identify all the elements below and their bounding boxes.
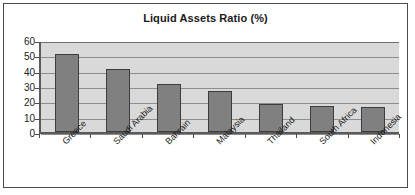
x-label-slot: Indonesia xyxy=(348,138,399,186)
x-label-slot: Saudi Arabia xyxy=(90,138,141,186)
bar-greece[interactable] xyxy=(55,54,79,132)
x-label-slot: Bahrain xyxy=(142,138,193,186)
chart-frame: Liquid Assets Ratio (%) 0102030405060 Gr… xyxy=(3,3,408,188)
x-axis-tick-mark xyxy=(399,134,400,138)
chart-title: Liquid Assets Ratio (%) xyxy=(4,12,407,24)
y-axis-labels: 0102030405060 xyxy=(4,42,35,134)
x-axis-labels: GreeceSaudi ArabiaBahrainMalaysiaThailan… xyxy=(39,138,399,186)
y-axis-tick-label: 30 xyxy=(24,83,35,93)
x-label-slot: Thailand xyxy=(245,138,296,186)
x-label-slot: South Africa xyxy=(296,138,347,186)
bar-slot xyxy=(41,42,92,132)
y-axis-tick-label: 10 xyxy=(24,114,35,124)
y-axis-tick-label: 60 xyxy=(24,37,35,47)
y-axis-tick-label: 50 xyxy=(24,52,35,62)
x-label-slot: Greece xyxy=(39,138,90,186)
x-label-slot: Malaysia xyxy=(193,138,244,186)
y-axis-tick-label: 20 xyxy=(24,98,35,108)
y-axis-tick-label: 40 xyxy=(24,68,35,78)
